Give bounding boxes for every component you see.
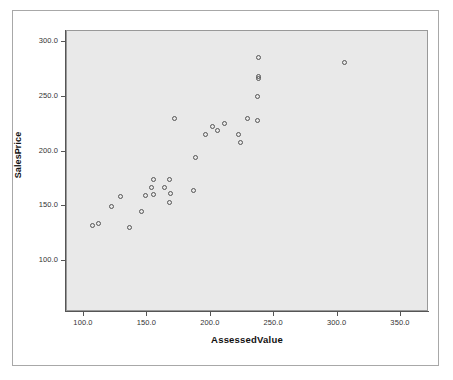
data-point [167,200,172,205]
data-point [172,116,177,121]
y-axis-tick-label: 150.0 [24,200,58,209]
y-axis-title: SalesPrice [13,115,23,195]
data-point [127,225,132,230]
data-point [191,188,196,193]
x-axis-tick-label: 200.0 [190,318,230,327]
data-point [215,128,220,133]
data-point [255,118,260,123]
y-axis-tick-label: 200.0 [24,146,58,155]
data-point [245,116,250,121]
y-axis-tick [61,260,65,261]
data-point [256,74,261,79]
data-point [109,204,114,209]
x-axis-tick [337,312,338,316]
data-point [222,121,227,126]
data-point [143,193,148,198]
data-point [151,177,156,182]
x-axis-tick-label: 150.0 [126,318,166,327]
x-axis-line [65,311,429,312]
data-point [90,223,95,228]
data-point [256,55,261,60]
plot-data-area[interactable] [66,30,428,311]
data-point [118,194,123,199]
x-axis-tick [83,312,84,316]
x-axis-tick [146,312,147,316]
x-axis-tick-label: 350.0 [380,318,420,327]
data-point [149,185,154,190]
x-axis-tick-label: 300.0 [317,318,357,327]
data-point [255,94,260,99]
data-point [238,140,243,145]
y-axis-tick [61,151,65,152]
data-point [342,60,347,65]
x-axis-tick [210,312,211,316]
data-point [203,132,208,137]
data-point [162,185,167,190]
y-axis-tick-label: 250.0 [24,91,58,100]
x-axis-tick-label: 250.0 [253,318,293,327]
y-axis-tick [61,96,65,97]
data-point [168,191,173,196]
data-point [167,177,172,182]
y-axis-line [65,30,66,312]
x-axis-tick [273,312,274,316]
data-point [139,209,144,214]
x-axis-tick [400,312,401,316]
y-axis-tick [61,41,65,42]
x-axis-title: AssessedValue [66,334,428,345]
x-axis-tick-label: 100.0 [63,318,103,327]
y-axis-tick-label: 100.0 [24,255,58,264]
data-point [96,221,101,226]
data-point [236,132,241,137]
y-axis-tick [61,205,65,206]
data-point [193,155,198,160]
data-point [151,192,156,197]
scatter-chart[interactable]: 100.0150.0200.0250.0300.0 100.0150.0200.… [0,0,453,380]
y-axis-tick-label: 300.0 [24,36,58,45]
